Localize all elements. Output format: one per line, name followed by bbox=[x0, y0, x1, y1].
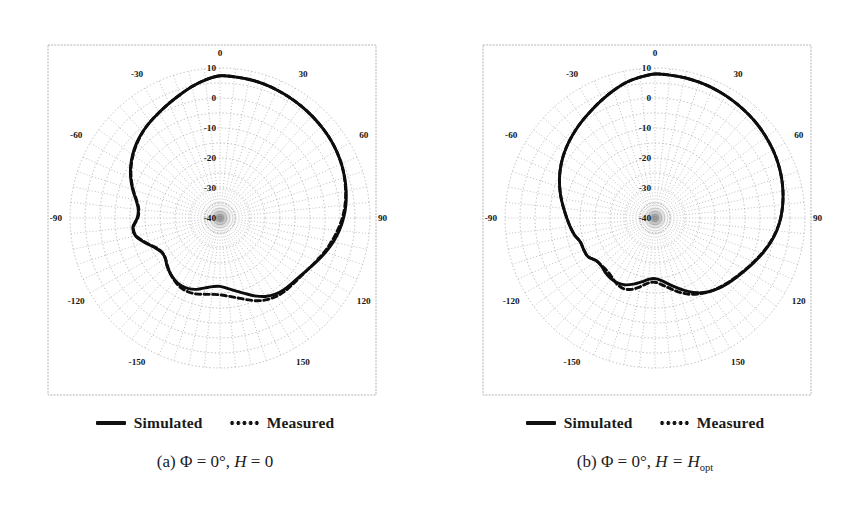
caption-a-h-eq: = 0 bbox=[251, 452, 273, 471]
polar-chart-b-svg: 0306090120150-150-120-90-60-30100-10-20-… bbox=[430, 0, 860, 410]
caption-b-phi: Φ = 0°, bbox=[601, 452, 651, 471]
legend-entry-simulated: Simulated bbox=[96, 414, 203, 432]
angle-tick-label: 0 bbox=[653, 48, 658, 58]
caption-b-h-sub: opt bbox=[700, 462, 713, 473]
angle-tick-label: 30 bbox=[733, 69, 743, 79]
angle-tick-label: -120 bbox=[68, 296, 85, 306]
caption-b-h-eq: = H bbox=[672, 452, 700, 471]
series-measured bbox=[131, 76, 346, 301]
legend-label-measured: Measured bbox=[697, 414, 765, 432]
caption-b-prefix: (b) bbox=[577, 452, 597, 471]
radial-tick-label: -30 bbox=[639, 183, 652, 193]
angle-tick-label: 120 bbox=[792, 296, 806, 306]
radial-tick-label: -20 bbox=[639, 153, 652, 163]
series-measured bbox=[559, 74, 783, 294]
angle-tick-label: 30 bbox=[298, 69, 308, 79]
radial-tick-label: -30 bbox=[204, 183, 217, 193]
angle-tick-label: -30 bbox=[566, 69, 579, 79]
angle-tick-label: -60 bbox=[70, 130, 83, 140]
dotted-line-swatch-icon bbox=[229, 421, 259, 425]
solid-line-swatch-icon bbox=[96, 421, 126, 425]
polar-plot-b: 0306090120150-150-120-90-60-30100-10-20-… bbox=[430, 0, 860, 410]
angle-tick-label: 0 bbox=[218, 48, 223, 58]
caption-b-h-var: H bbox=[655, 452, 667, 471]
radial-tick-label: 10 bbox=[642, 63, 652, 73]
dotted-line-swatch-icon bbox=[659, 421, 689, 425]
angle-tick-label: -150 bbox=[564, 357, 581, 367]
polar-plot-a: 0306090120150-150-120-90-60-30100-10-20-… bbox=[0, 0, 430, 410]
angle-tick-label: -120 bbox=[503, 296, 520, 306]
angle-tick-label: -90 bbox=[485, 213, 498, 223]
radial-tick-label: -40 bbox=[204, 213, 217, 223]
legend-b: Simulated Measured bbox=[430, 408, 860, 438]
angle-tick-label: 90 bbox=[378, 213, 388, 223]
legend-entry-simulated: Simulated bbox=[526, 414, 633, 432]
radial-tick-label: 0 bbox=[211, 93, 216, 103]
panel-b: 0306090120150-150-120-90-60-30100-10-20-… bbox=[430, 0, 860, 511]
figure-radiation-patterns: 0306090120150-150-120-90-60-30100-10-20-… bbox=[0, 0, 860, 511]
legend-label-simulated: Simulated bbox=[564, 414, 633, 432]
radial-tick-label: 10 bbox=[207, 63, 217, 73]
angle-tick-label: -150 bbox=[129, 357, 146, 367]
caption-a-prefix: (a) bbox=[157, 452, 176, 471]
angle-tick-label: 150 bbox=[731, 357, 745, 367]
caption-a-phi: Φ = 0°, bbox=[180, 452, 230, 471]
radial-tick-label: 0 bbox=[646, 93, 651, 103]
solid-line-swatch-icon bbox=[526, 421, 556, 425]
caption-a: (a) Φ = 0°, H = 0 bbox=[0, 452, 430, 472]
angle-tick-label: -30 bbox=[131, 69, 144, 79]
legend-entry-measured: Measured bbox=[659, 414, 765, 432]
legend-label-measured: Measured bbox=[267, 414, 335, 432]
legend-entry-measured: Measured bbox=[229, 414, 335, 432]
radial-tick-label: -20 bbox=[204, 153, 217, 163]
radial-tick-label: -10 bbox=[639, 123, 652, 133]
radial-tick-label: -10 bbox=[204, 123, 217, 133]
angle-tick-label: 90 bbox=[813, 213, 823, 223]
polar-chart-a-svg: 0306090120150-150-120-90-60-30100-10-20-… bbox=[0, 0, 430, 410]
radial-tick-label: -40 bbox=[639, 213, 652, 223]
angle-tick-label: -90 bbox=[50, 213, 63, 223]
angle-tick-label: 60 bbox=[794, 130, 804, 140]
angle-tick-label: 60 bbox=[359, 130, 369, 140]
legend-label-simulated: Simulated bbox=[134, 414, 203, 432]
caption-b: (b) Φ = 0°, H = Hopt bbox=[430, 452, 860, 473]
angle-tick-label: -60 bbox=[505, 130, 518, 140]
panel-a: 0306090120150-150-120-90-60-30100-10-20-… bbox=[0, 0, 430, 511]
caption-a-h-var: H bbox=[234, 452, 246, 471]
angle-tick-label: 120 bbox=[357, 296, 371, 306]
angle-tick-label: 150 bbox=[296, 357, 310, 367]
legend-a: Simulated Measured bbox=[0, 408, 430, 438]
